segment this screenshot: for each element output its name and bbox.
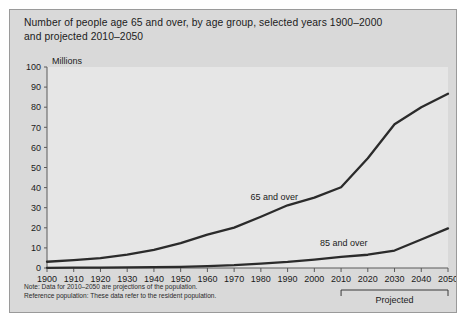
y-tick-label: 100 <box>26 62 41 72</box>
chart-notes: Note: Data for 2010–2050 are projections… <box>24 282 444 300</box>
y-axis: 0102030405060708090100 <box>26 62 47 273</box>
y-tick-label: 90 <box>31 82 41 92</box>
line-chart: 0102030405060708090100 19001910192019301… <box>10 10 457 313</box>
note-line-1: Note: Data for 2010–2050 are projections… <box>24 282 444 291</box>
y-axis-units-label: Millions <box>52 56 83 66</box>
figure-panel: Number of people age 65 and over, by age… <box>9 9 457 313</box>
series-label: 65 and over <box>250 192 298 202</box>
y-tick-label: 70 <box>31 123 41 133</box>
y-tick-label: 20 <box>31 223 41 233</box>
y-tick-label: 10 <box>31 243 41 253</box>
note-line-2: Reference population: These data refer t… <box>24 291 444 300</box>
series-label: 85 and over <box>320 238 368 248</box>
y-tick-label: 80 <box>31 102 41 112</box>
y-tick-label: 50 <box>31 163 41 173</box>
y-tick-label: 30 <box>31 203 41 213</box>
y-tick-label: 0 <box>36 263 41 273</box>
y-tick-label: 40 <box>31 183 41 193</box>
plot-background <box>47 67 448 268</box>
y-tick-label: 60 <box>31 143 41 153</box>
